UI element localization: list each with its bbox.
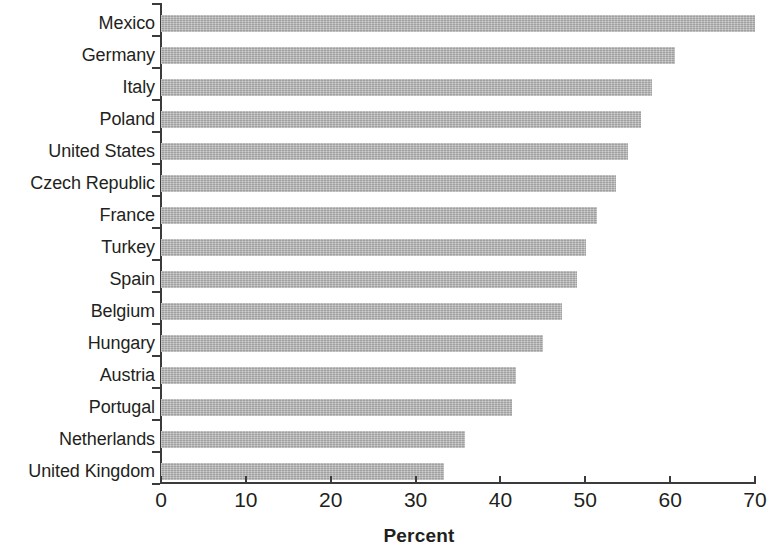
bar xyxy=(161,207,597,224)
bar xyxy=(161,79,652,96)
y-axis-tick xyxy=(152,259,160,261)
category-label: Hungary xyxy=(3,333,155,353)
bar xyxy=(161,463,444,480)
x-axis-tick-label: 30 xyxy=(386,488,446,512)
y-axis-tick xyxy=(152,291,160,293)
category-label: Turkey xyxy=(3,237,155,257)
x-axis-tick xyxy=(584,476,586,484)
y-axis-tick xyxy=(152,195,160,197)
x-axis-tick xyxy=(245,476,247,484)
x-axis-tick-label: 0 xyxy=(131,488,191,512)
y-axis-tick xyxy=(152,483,160,485)
y-axis-tick xyxy=(152,387,160,389)
x-axis-title-text: Percent xyxy=(383,525,454,546)
bar xyxy=(161,367,516,384)
bar-chart: MexicoGermanyItalyPolandUnited StatesCze… xyxy=(0,0,772,553)
bar xyxy=(161,175,616,192)
x-axis-tick-label: 70 xyxy=(725,488,772,512)
y-axis-tick xyxy=(152,35,160,37)
x-axis-tick-label: 60 xyxy=(640,488,700,512)
x-axis-tick xyxy=(415,476,417,484)
x-axis-tick xyxy=(160,476,162,484)
category-label: Poland xyxy=(3,109,155,129)
category-label: Netherlands xyxy=(3,429,155,449)
bar xyxy=(161,271,577,288)
y-axis-tick xyxy=(152,131,160,133)
x-axis-tick-label: 10 xyxy=(216,488,276,512)
category-axis-labels: MexicoGermanyItalyPolandUnited StatesCze… xyxy=(0,0,155,483)
bar xyxy=(161,15,755,32)
category-label: United Kingdom xyxy=(3,461,155,481)
x-axis-tick xyxy=(754,476,756,484)
y-axis-tick xyxy=(152,451,160,453)
bar xyxy=(161,239,586,256)
category-label: Germany xyxy=(3,45,155,65)
bar xyxy=(161,431,465,448)
y-axis-tick xyxy=(152,227,160,229)
y-axis-tick xyxy=(152,355,160,357)
bar xyxy=(161,143,628,160)
bar xyxy=(161,111,641,128)
category-label: Austria xyxy=(3,365,155,385)
x-axis-tick xyxy=(330,476,332,484)
x-axis-tick-label: 40 xyxy=(470,488,530,512)
category-label: Spain xyxy=(3,269,155,289)
y-axis-tick xyxy=(152,3,160,5)
x-axis-tick-label: 50 xyxy=(555,488,615,512)
x-axis-tick-label: 20 xyxy=(301,488,361,512)
y-axis-tick xyxy=(152,99,160,101)
x-axis-tick xyxy=(499,476,501,484)
bar xyxy=(161,399,512,416)
bar xyxy=(161,47,675,64)
category-label: Czech Republic xyxy=(3,173,155,193)
category-label: France xyxy=(3,205,155,225)
x-axis-tick xyxy=(669,476,671,484)
y-axis-tick xyxy=(152,67,160,69)
category-label: Italy xyxy=(3,77,155,97)
x-axis-title: Percent xyxy=(0,525,772,547)
bar xyxy=(161,303,562,320)
category-label: Mexico xyxy=(3,13,155,33)
category-label: Portugal xyxy=(3,397,155,417)
y-axis-tick xyxy=(152,163,160,165)
y-axis-tick xyxy=(152,419,160,421)
y-axis-tick xyxy=(152,323,160,325)
category-label: United States xyxy=(3,141,155,161)
plot-area xyxy=(161,0,755,483)
category-label: Belgium xyxy=(3,301,155,321)
bar xyxy=(161,335,543,352)
